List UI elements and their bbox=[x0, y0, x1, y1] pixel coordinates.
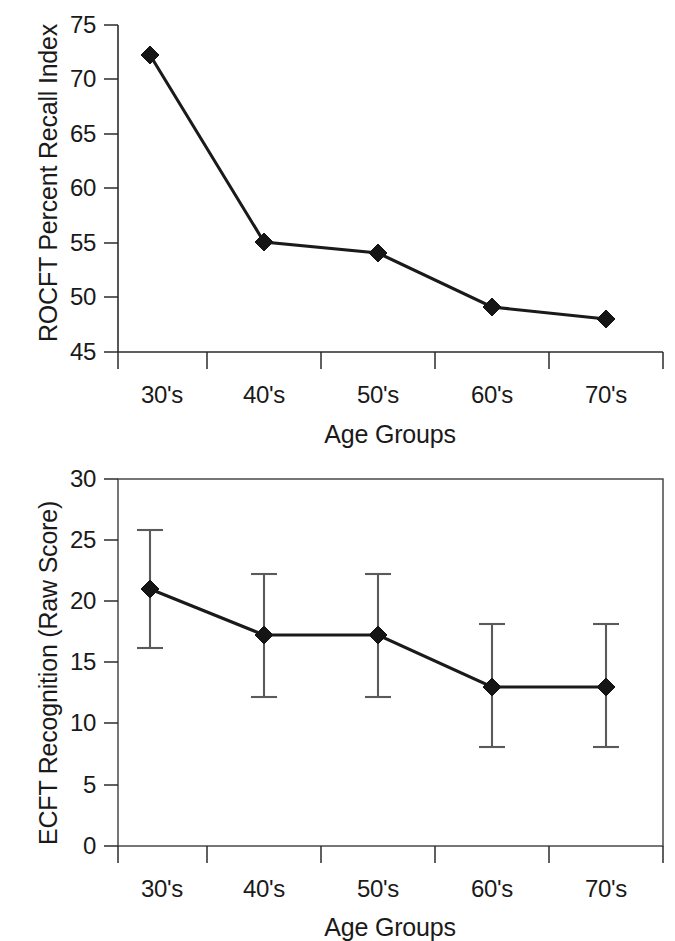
y-axis-title: ECFT Recognition (Raw Score) bbox=[34, 501, 63, 845]
x-tick-label-30s: 30's bbox=[141, 381, 183, 409]
y-tick-label-30: 30 bbox=[48, 465, 96, 493]
rocft-plot-area bbox=[0, 0, 675, 450]
plot-frame bbox=[118, 479, 663, 846]
y-axis-title: ROCFT Percent Recall Index bbox=[34, 24, 63, 342]
x-tick-label-50s: 50's bbox=[357, 875, 399, 903]
data-point-40s[interactable] bbox=[255, 626, 273, 644]
x-tick-label-40s: 40's bbox=[243, 381, 285, 409]
data-point-30s[interactable] bbox=[141, 46, 159, 64]
data-point-50s[interactable] bbox=[369, 626, 387, 644]
rocft-series-line bbox=[150, 55, 606, 319]
x-axis-title: Age Groups bbox=[324, 913, 455, 941]
figure: 75 70 65 60 55 50 45 ROCFT Percent Recal… bbox=[0, 0, 675, 941]
data-point-70s[interactable] bbox=[597, 310, 615, 328]
data-point-40s[interactable] bbox=[255, 233, 273, 251]
x-axis-title: Age Groups bbox=[324, 420, 455, 449]
x-tick-label-50s: 50's bbox=[357, 381, 399, 409]
chart-panel-rocft: 75 70 65 60 55 50 45 ROCFT Percent Recal… bbox=[0, 0, 675, 450]
x-tick-label-70s: 70's bbox=[585, 875, 627, 903]
chart-panel-ecft: 30 25 20 15 10 5 0 ECFT Recognition (Raw… bbox=[0, 455, 675, 941]
x-tick-label-40s: 40's bbox=[243, 875, 285, 903]
x-tick-label-60s: 60's bbox=[471, 381, 513, 409]
y-tick-label-45: 45 bbox=[48, 338, 96, 366]
x-tick-label-60s: 60's bbox=[471, 875, 513, 903]
x-tick-label-70s: 70's bbox=[585, 381, 627, 409]
data-point-60s[interactable] bbox=[483, 678, 501, 696]
ecft-plot-area bbox=[0, 455, 675, 941]
data-point-50s[interactable] bbox=[369, 244, 387, 262]
data-point-60s[interactable] bbox=[483, 298, 501, 316]
data-point-30s[interactable] bbox=[141, 580, 159, 598]
x-tick-label-30s: 30's bbox=[141, 875, 183, 903]
data-point-70s[interactable] bbox=[597, 678, 615, 696]
